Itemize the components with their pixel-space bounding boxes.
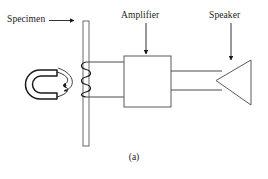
coil-to-amplifier-wires [86, 62, 124, 97]
field-arrows [57, 68, 72, 97]
horseshoe-magnet [26, 70, 58, 99]
speaker-cone [216, 60, 251, 105]
specimen-label: Specimen [7, 14, 45, 24]
amplifier-label: Amplifier [121, 10, 159, 20]
speaker-label: Speaker [209, 10, 240, 20]
figure-canvas: Specimen Amplifier Speaker (a) [0, 0, 268, 179]
figure-caption: (a) [0, 152, 268, 162]
amplifier-box [124, 56, 171, 107]
amplifier-to-speaker-wires [171, 71, 222, 90]
